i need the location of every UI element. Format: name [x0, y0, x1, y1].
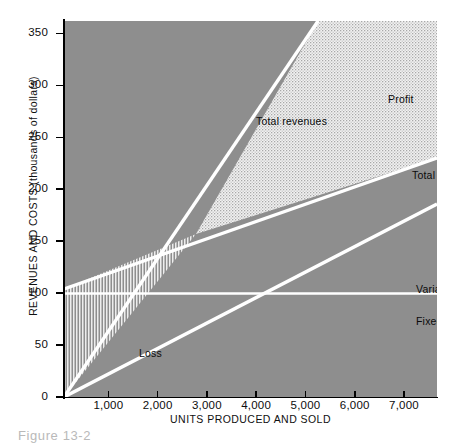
y-tick-label-0: 0: [0, 390, 48, 402]
y-tick-100: [56, 292, 64, 294]
y-tick-label-100: 100: [0, 286, 48, 298]
x-tick-7,000: [403, 391, 405, 398]
series-label-variable-costs: Variable costs: [416, 283, 437, 295]
x-tick-6,000: [354, 391, 356, 398]
x-tick-5,000: [305, 391, 307, 398]
region-label-profit: Profit: [388, 93, 414, 105]
y-axis-line: [63, 19, 65, 399]
y-tick-0: [56, 396, 64, 398]
series-label-fixed-costs: Fixed costs: [416, 315, 437, 327]
figure-caption: Figure 13-2: [18, 428, 91, 443]
y-tick-label-200: 200: [0, 182, 48, 194]
break-even-chart-figure: Total revenues Profit Total costs Variab…: [0, 0, 451, 445]
x-tick-2,000: [157, 391, 159, 398]
plot-area: Total revenues Profit Total costs Variab…: [64, 21, 437, 397]
y-tick-label-250: 250: [0, 130, 48, 142]
x-tick-1,000: [108, 391, 110, 398]
x-tick-4,000: [255, 391, 257, 398]
y-axis-title: REVENUES AND COSTS (thousands of dollars…: [27, 51, 39, 341]
y-tick-50: [56, 344, 64, 346]
loss-region: [64, 234, 196, 397]
series-label-total-revenues: Total revenues: [256, 115, 327, 127]
y-tick-200: [56, 188, 64, 190]
y-tick-150: [56, 240, 64, 242]
plot-svg: [64, 21, 437, 397]
x-tick-3,000: [206, 391, 208, 398]
total-revenues-line: [64, 21, 318, 397]
y-tick-250: [56, 137, 64, 139]
series-label-total-costs: Total costs: [412, 169, 437, 181]
x-tick-label-7,000: 7,000: [374, 399, 434, 411]
y-tick-label-150: 150: [0, 234, 48, 246]
y-tick-300: [56, 85, 64, 87]
y-tick-label-300: 300: [0, 78, 48, 90]
x-axis-title: UNITS PRODUCED AND SOLD: [64, 413, 437, 425]
x-axis-line: [63, 397, 438, 399]
y-tick-350: [56, 33, 64, 35]
y-tick-label-50: 50: [0, 338, 48, 350]
y-tick-label-350: 350: [0, 26, 48, 38]
region-label-loss: Loss: [139, 347, 162, 359]
